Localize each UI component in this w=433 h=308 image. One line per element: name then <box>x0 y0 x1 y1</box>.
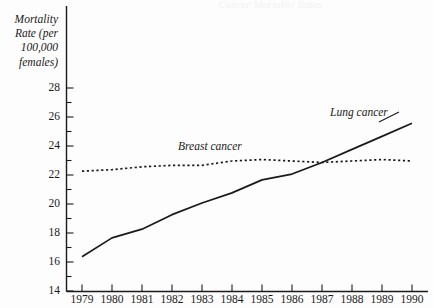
plot-area <box>0 0 433 308</box>
y-tick-label-14: 14 <box>36 284 60 296</box>
axis-lines <box>67 6 429 292</box>
series-label-lung-cancer: Lung cancer <box>330 106 388 118</box>
series-label-breast-cancer: Breast cancer <box>178 140 242 152</box>
y-tick-label-22: 22 <box>36 168 60 180</box>
x-tick-label-1990: 1990 <box>392 293 432 305</box>
y-tick-label-26: 26 <box>36 110 60 122</box>
y-tick-label-28: 28 <box>36 81 60 93</box>
series-line-breast-cancer <box>82 160 412 172</box>
y-tick-label-24: 24 <box>36 139 60 151</box>
series-line-lung-cancer <box>82 123 412 256</box>
chart-figure: Cancer Mortality Rates Mortality Rate (p… <box>0 0 433 308</box>
y-minor-ticks <box>67 103 72 277</box>
y-tick-label-16: 16 <box>36 255 60 267</box>
y-tick-label-18: 18 <box>36 226 60 238</box>
y-tick-label-20: 20 <box>36 197 60 209</box>
x-ticks <box>82 285 412 292</box>
